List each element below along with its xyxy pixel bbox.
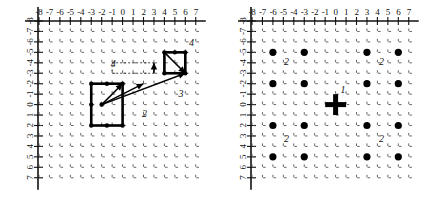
- left-y-tick-label: 5: [25, 154, 35, 159]
- left-y-tick-label: -7: [25, 27, 35, 35]
- right-y-tick-label: -8: [238, 17, 248, 25]
- right-annotation: 1: [340, 84, 345, 95]
- lattice-dot: [363, 153, 370, 160]
- right-x-tick-label: 3: [365, 7, 370, 17]
- left-annotation: 4: [189, 37, 194, 48]
- square-node: [183, 50, 187, 54]
- left-y-tick-label: -8: [25, 17, 35, 25]
- square-node: [162, 71, 166, 75]
- left-x-tick-label: 2: [141, 7, 145, 17]
- square-node: [89, 123, 93, 127]
- left-y-tick-label: 0: [25, 102, 35, 107]
- right-x-tick-label: -6: [269, 7, 277, 17]
- lattice-dot: [269, 49, 276, 56]
- square-node: [89, 82, 93, 86]
- arrow-origin-node: [99, 102, 104, 107]
- right-x-tick-label: 5: [386, 7, 391, 17]
- right-x-tick-label: -7: [259, 7, 267, 17]
- left-annotation: 4: [111, 58, 116, 69]
- left-x-tick-label: 0: [120, 7, 125, 17]
- left-y-tick-label: 6: [25, 164, 35, 169]
- square-node: [173, 50, 177, 54]
- left-x-tick-label: 5: [173, 7, 178, 17]
- left-x-tick-label: -2: [98, 7, 105, 17]
- left-y-tick-label: -4: [25, 59, 35, 67]
- right-y-tick-label: 3: [238, 133, 248, 138]
- right-x-tick-label: 6: [396, 7, 401, 17]
- left-x-tick-label: -4: [77, 7, 85, 17]
- lattice-dot: [269, 153, 276, 160]
- right-x-tick-label: -8: [249, 7, 257, 17]
- lattice-dot: [395, 122, 402, 129]
- lattice-dot: [301, 122, 308, 129]
- right-x-tick-label: 2: [354, 7, 358, 17]
- left-x-tick-label: 7: [194, 7, 199, 17]
- right-panel-plot: -8-7-6-5-4-3-2-101234567-8-7-6-5-4-3-2-1…: [213, 0, 425, 219]
- left-x-tick-label: -6: [56, 7, 64, 17]
- right-y-tick-label: 7: [238, 175, 248, 180]
- square-node: [105, 123, 109, 127]
- left-x-tick-label: -1: [109, 7, 116, 17]
- left-x-tick-label: 6: [183, 7, 188, 17]
- left-x-tick-label: 4: [162, 7, 167, 17]
- left-panel-plot: -8-7-6-5-4-3-2-101234567-8-7-6-5-4-3-2-1…: [0, 0, 212, 219]
- left-x-tick-label: 1: [131, 7, 135, 17]
- arrow-up-guide-head: [151, 63, 157, 70]
- right-annotation: 2: [379, 56, 384, 67]
- left-panel: -8-7-6-5-4-3-2-101234567-8-7-6-5-4-3-2-1…: [0, 0, 212, 219]
- left-x-tick-label: -8: [36, 7, 44, 17]
- lattice-dot: [363, 122, 370, 129]
- right-x-tick-label: 0: [333, 7, 338, 17]
- right-y-tick-label: 6: [238, 164, 248, 169]
- right-x-tick-label: -5: [280, 7, 288, 17]
- left-y-tick-label: 1: [25, 113, 35, 117]
- right-x-tick-label: 4: [375, 7, 380, 17]
- left-y-tick-label: -3: [25, 69, 35, 77]
- left-y-tick-label: -6: [25, 38, 35, 46]
- lattice-dot: [363, 49, 370, 56]
- right-y-tick-label: -3: [238, 69, 248, 77]
- right-y-tick-label: 1: [238, 113, 248, 117]
- left-y-tick-label: 3: [25, 133, 35, 138]
- lattice-dot: [269, 122, 276, 129]
- right-y-tick-label: -2: [238, 80, 248, 87]
- left-y-tick-label: 7: [25, 175, 35, 180]
- arrow-to-small-square: [102, 73, 186, 104]
- right-y-tick-label: 5: [238, 154, 248, 159]
- left-x-tick-label: 3: [152, 7, 157, 17]
- square-node: [105, 82, 109, 86]
- right-y-tick-label: -5: [238, 48, 248, 56]
- left-annotation: 3: [178, 88, 184, 99]
- lattice-dot: [301, 80, 308, 87]
- right-annotation: 2: [284, 56, 289, 67]
- right-x-tick-label: -1: [322, 7, 329, 17]
- left-y-tick-label: 4: [25, 144, 35, 149]
- left-x-tick-label: -7: [46, 7, 54, 17]
- left-y-tick-label: -5: [25, 48, 35, 56]
- lattice-dot: [395, 80, 402, 87]
- square-node: [89, 102, 93, 106]
- right-y-tick-label: -7: [238, 27, 248, 35]
- left-x-tick-label: -3: [88, 7, 96, 17]
- right-x-tick-label: -2: [311, 7, 318, 17]
- right-panel: -8-7-6-5-4-3-2-101234567-8-7-6-5-4-3-2-1…: [213, 0, 425, 219]
- right-x-tick-label: 7: [407, 7, 412, 17]
- right-annotation: 2: [379, 133, 384, 144]
- left-y-tick-label: -2: [25, 80, 35, 87]
- right-x-tick-label: -4: [290, 7, 298, 17]
- right-y-tick-label: 4: [238, 144, 248, 149]
- lattice-dot: [395, 153, 402, 160]
- right-y-tick-label: 0: [238, 102, 248, 107]
- big-square: [91, 84, 122, 126]
- figure-root: -8-7-6-5-4-3-2-101234567-8-7-6-5-4-3-2-1…: [0, 0, 425, 219]
- lattice-dot: [363, 80, 370, 87]
- right-y-tick-label: 2: [238, 123, 248, 127]
- left-annotation: 2: [142, 108, 147, 119]
- lattice-dot: [301, 49, 308, 56]
- lattice-dot: [301, 153, 308, 160]
- right-y-tick-label: -6: [238, 38, 248, 46]
- lattice-dot: [269, 80, 276, 87]
- right-x-tick-label: -3: [301, 7, 309, 17]
- right-y-tick-label: -4: [238, 59, 248, 67]
- left-y-tick-label: -1: [25, 91, 35, 98]
